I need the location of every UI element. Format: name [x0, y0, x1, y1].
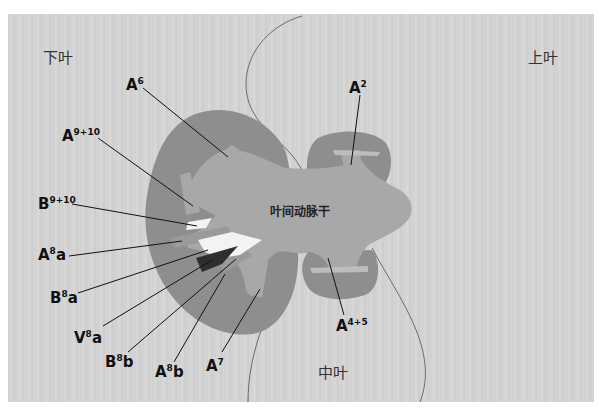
label-a8b: A8b	[155, 364, 184, 380]
label-a8a: A8a	[38, 247, 66, 263]
label-a6: A6	[126, 77, 144, 93]
label-b8b: B8b	[105, 354, 133, 370]
label-a9-10: A9+10	[62, 128, 100, 144]
label-a2: A2	[349, 80, 367, 96]
label-a4-5: A4+5	[336, 318, 368, 334]
label-b9-10: B9+10	[38, 196, 76, 212]
label-v8a: V8a	[74, 330, 102, 346]
label-b8a: B8a	[50, 290, 78, 306]
interlobar-trunk-label: 叶间动脉干	[270, 202, 330, 219]
label-a7: A7	[206, 358, 224, 374]
upper-lobe-label: 上叶	[528, 46, 558, 67]
lower-lobe-label: 下叶	[43, 46, 73, 67]
fissure-line-middle-right	[372, 248, 425, 402]
middle-lobe-label: 中叶	[318, 361, 348, 382]
